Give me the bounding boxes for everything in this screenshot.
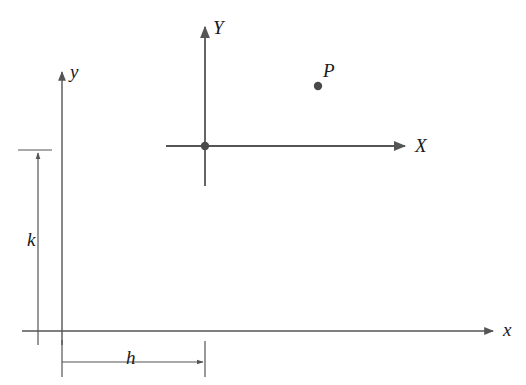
point-p-label: P [323, 61, 335, 80]
new-origin-dot [201, 142, 209, 150]
diagram-canvas [0, 0, 526, 385]
capital-y-axis-label: Y [213, 18, 224, 37]
y-axis-label: y [70, 62, 78, 81]
figure-diagram: y x Y X P h k [0, 0, 526, 385]
k-dimension-label: k [27, 230, 35, 249]
capital-x-axis-label: X [415, 136, 427, 155]
h-dimension-label: h [126, 348, 136, 367]
point-p-dot [314, 82, 322, 90]
x-axis-label: x [503, 320, 511, 339]
